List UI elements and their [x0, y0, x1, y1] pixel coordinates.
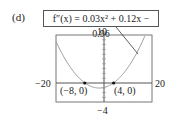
xmax-label: 20: [155, 79, 165, 89]
graph: [0, 0, 174, 122]
point-label-4: (4, 0): [114, 86, 136, 96]
curve: [56, 36, 145, 88]
ymax-label: 10: [97, 27, 107, 37]
figure: (d) f″(x) = 0.03x² + 0.12x − 0.96 10 −4 …: [0, 0, 174, 122]
point-label-neg8: (−8, 0): [60, 86, 87, 96]
leader-line: [116, 27, 138, 54]
xmin-label: −20: [35, 79, 51, 89]
ymin-label: −4: [97, 106, 108, 116]
